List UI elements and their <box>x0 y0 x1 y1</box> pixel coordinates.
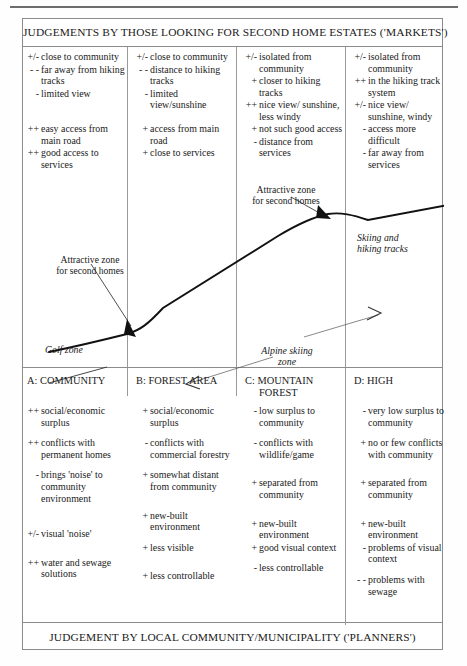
list-item: +/- isolated from community <box>352 51 448 74</box>
planners-header-c-name: MOUNTAIN <box>257 375 313 386</box>
planners-header-d-name: HIGH <box>367 375 393 386</box>
annotation-attractive-zone-right: Attractive zone for second homes <box>231 184 341 207</box>
top-divider-rule <box>10 6 458 8</box>
annotation-attractive-zone-left: Attractive zone for second homes <box>35 254 145 277</box>
divider-planners-bc <box>236 368 237 396</box>
list-item: ++ conflicts with permanent homes <box>25 437 126 460</box>
item-text: distance to hiking tracks <box>150 64 235 87</box>
item-text: new-built environment <box>259 518 344 541</box>
item-sign: - - <box>25 64 39 87</box>
markets-column-a-group1: +/- close to community - - far away from… <box>25 51 126 100</box>
item-sign: ++ <box>25 123 39 146</box>
markets-column-a-group2: ++ easy access from main road ++ good ac… <box>25 123 126 171</box>
planners-header-a: A: COMMUNITY <box>27 375 127 387</box>
item-sign: - <box>245 437 257 460</box>
item-text: visual 'noise' <box>41 528 126 540</box>
annotation-golf-zone: Golf zone <box>45 344 115 355</box>
item-sign: + <box>354 437 366 460</box>
item-sign: - <box>25 88 39 100</box>
planners-header-c: C: MOUNTAIN FOREST <box>245 375 345 399</box>
item-text: limited view <box>41 88 126 100</box>
item-text: close to community <box>150 51 235 63</box>
annotation-skiing-hiking-tracks: Skiing and hiking tracks <box>357 232 447 255</box>
item-sign: +/- <box>243 51 257 74</box>
item-sign: + <box>136 405 148 428</box>
list-item: - low surplus to community <box>245 405 344 428</box>
rule-under-markets-title <box>23 46 442 47</box>
rule-above-planners-title <box>23 622 442 623</box>
planners-header-d: D: HIGH <box>354 375 448 387</box>
item-text: problems of visual context <box>368 542 446 565</box>
list-item: +/- isolated from community <box>243 51 344 74</box>
item-sign: + <box>243 75 257 98</box>
list-item: - access more difficult <box>352 123 448 146</box>
markets-column-b-group2: + access from main road + close to servi… <box>134 123 235 160</box>
item-sign: ++ <box>25 437 39 460</box>
list-item: - distance from services <box>243 136 344 159</box>
item-text: isolated from community <box>368 51 448 74</box>
rule-between-diagram-and-planners <box>23 367 442 368</box>
item-sign: - <box>352 123 366 146</box>
item-sign: + <box>134 147 148 159</box>
item-text: no or few conflicts with community <box>368 437 446 460</box>
item-sign: + <box>243 123 257 135</box>
list-item: ++ good access to services <box>25 147 126 170</box>
item-text: separated from community <box>259 477 344 500</box>
item-text: social/economic surplus <box>150 405 235 428</box>
item-sign: - <box>354 542 366 565</box>
list-item: - conflicts with wildlife/game <box>245 437 344 460</box>
item-sign: + <box>245 518 257 541</box>
item-text: not such good access <box>259 123 344 135</box>
divider-markets-cd <box>345 47 346 367</box>
item-text: nice view/ sunshine, less windy <box>259 99 344 122</box>
annotation-line-1: Golf zone <box>45 344 115 355</box>
list-item: + close to services <box>134 147 235 159</box>
list-item: + no or few conflicts with community <box>354 437 446 460</box>
item-sign: +/- <box>352 99 366 122</box>
list-item: - far away from services <box>352 147 448 170</box>
item-sign: + <box>136 510 148 533</box>
figure-root: JUDGEMENTS BY THOSE LOOKING FOR SECOND H… <box>0 0 467 666</box>
list-item: + new-built environment <box>245 518 344 541</box>
item-text: good visual context <box>259 542 344 554</box>
list-item: - problems of visual context <box>354 542 446 565</box>
markets-title: JUDGEMENTS BY THOSE LOOKING FOR SECOND H… <box>23 26 442 38</box>
planners-title: JUDGEMENT BY LOCAL COMMUNITY/MUNICIPALIT… <box>23 631 442 643</box>
item-sign: + <box>354 477 366 500</box>
annotation-line-2: for second homes <box>231 195 341 206</box>
list-item: + good visual context <box>245 542 344 554</box>
list-item: + less controllable <box>136 570 235 582</box>
item-text: closer to hiking tracks <box>259 75 344 98</box>
list-item: +/- close to community <box>134 51 235 63</box>
item-text: less visible <box>150 542 235 554</box>
item-text: problems with sewage <box>368 574 446 597</box>
list-item: ++ in the hiking track system <box>352 75 448 98</box>
list-item: + new-built environment <box>136 510 235 533</box>
item-sign: - <box>134 88 148 111</box>
item-text: isolated from community <box>259 51 344 74</box>
item-sign: + <box>136 542 148 554</box>
list-item: ++ water and sewage solutions <box>25 557 126 580</box>
annotation-alpine-skiing-zone: Alpine skiing zone <box>241 345 333 368</box>
list-item: + separated from community <box>245 477 344 500</box>
arrow-head-attractive-left <box>124 319 136 337</box>
item-text: access more difficult <box>368 123 448 146</box>
planners-header-b-name: FOREST AREA <box>148 375 217 386</box>
item-text: easy access from main road <box>41 123 126 146</box>
planners-column-d-items: - very low surplus to community + no or … <box>354 405 446 598</box>
list-item: + new-built environment <box>354 518 446 541</box>
divider-planners-cd <box>345 368 346 625</box>
item-text: water and sewage solutions <box>41 557 126 580</box>
list-item: - less controllable <box>245 562 344 574</box>
item-text: social/economic surplus <box>41 405 126 428</box>
list-item: - - far away from hiking tracks <box>25 64 126 87</box>
list-item: +/- visual 'noise' <box>25 528 126 540</box>
arrow-head-attractive-right <box>316 205 331 219</box>
planners-column-b-items: + social/economic surplus - conflicts wi… <box>136 405 235 583</box>
item-sign: - <box>25 469 39 504</box>
item-text: low surplus to community <box>259 405 344 428</box>
item-text: conflicts with commercial forestry <box>150 437 235 460</box>
list-item: + not such good access <box>243 123 344 135</box>
item-text: access from main road <box>150 123 235 146</box>
item-text: somewhat distant from community <box>150 469 235 492</box>
